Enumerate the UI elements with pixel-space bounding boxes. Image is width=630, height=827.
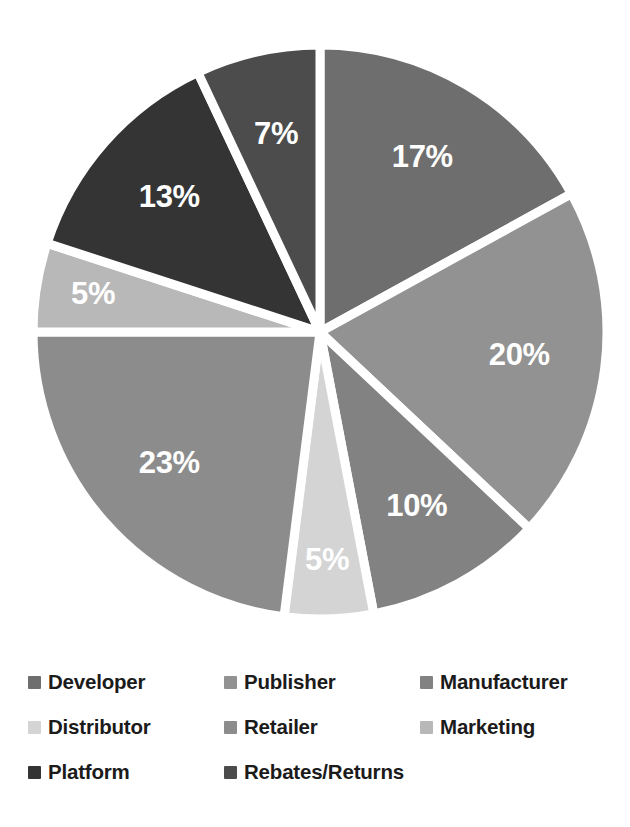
legend-swatch-icon (28, 721, 41, 734)
legend-item-label: Marketing (440, 717, 535, 738)
legend-item[interactable]: Rebates/Returns (224, 762, 420, 783)
pie-slice-value-label: 17% (392, 139, 453, 174)
pie-slice-value-label: 5% (71, 276, 115, 311)
pie-plot-area: 17%20%10%5%23%5%13%7% (0, 0, 630, 640)
legend-item[interactable]: Developer (28, 672, 224, 693)
legend-item[interactable]: Platform (28, 762, 224, 783)
legend-swatch-icon (224, 721, 237, 734)
legend-item-label: Retailer (244, 717, 318, 738)
legend-item-label: Manufacturer (440, 672, 567, 693)
legend-item-label: Publisher (244, 672, 336, 693)
legend-swatch-icon (420, 721, 433, 734)
legend-item-label: Developer (48, 672, 145, 693)
legend-swatch-icon (224, 676, 237, 689)
pie-slice-value-label: 7% (254, 116, 298, 151)
legend-swatch-icon (28, 766, 41, 779)
legend-item[interactable]: Distributor (28, 717, 224, 738)
legend-item[interactable]: Retailer (224, 717, 420, 738)
pie-slice-value-label: 20% (489, 337, 550, 372)
pie-chart-figure: 17%20%10%5%23%5%13%7% DeveloperPublisher… (0, 0, 630, 827)
legend-swatch-icon (224, 766, 237, 779)
legend-item[interactable]: Marketing (420, 717, 613, 738)
legend-item-label: Distributor (48, 717, 151, 738)
legend-item[interactable]: Publisher (224, 672, 420, 693)
pie-slices-group (33, 45, 607, 619)
legend-swatch-icon (420, 676, 433, 689)
legend-swatch-icon (28, 676, 41, 689)
pie-slice-value-label: 10% (386, 488, 447, 523)
pie-slice-value-label: 13% (139, 179, 200, 214)
pie-slice-value-label: 23% (139, 445, 200, 480)
legend-item-label: Platform (48, 762, 130, 783)
pie-slice-value-label: 5% (305, 542, 349, 577)
legend-item-label: Rebates/Returns (244, 762, 404, 783)
legend-item[interactable]: Manufacturer (420, 672, 613, 693)
legend-grid: DeveloperPublisherManufacturerDistributo… (28, 660, 613, 795)
pie-svg: 17%20%10%5%23%5%13%7% (0, 0, 630, 640)
